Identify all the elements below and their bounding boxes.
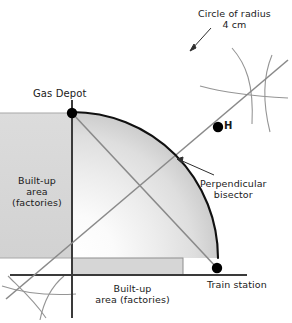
label-perpendicular-bisector: Perpendicular bisector bbox=[200, 178, 267, 200]
gas-depot-point bbox=[67, 108, 77, 118]
label-builtup-bottom-line2: area (factories) bbox=[75, 294, 190, 305]
construction-arc-right-cross-a bbox=[200, 86, 288, 98]
train-station-point bbox=[212, 263, 222, 273]
geometry-diagram: Circle of radius 4 cm Gas Depot H Perpen… bbox=[0, 0, 292, 323]
construction-arc-bottomleft-b bbox=[40, 276, 64, 320]
label-builtup-left-line1: Built-up bbox=[6, 175, 68, 186]
label-builtup-area-bottom: Built-up area (factories) bbox=[75, 283, 190, 305]
label-perpendicular-line1: Perpendicular bbox=[200, 178, 267, 189]
construction-arc-right-lower bbox=[265, 55, 272, 132]
label-builtup-bottom-line1: Built-up bbox=[75, 283, 190, 294]
label-circle-radius-line2: 4 cm bbox=[198, 19, 271, 30]
label-circle-of-radius: Circle of radius 4 cm bbox=[198, 8, 271, 30]
label-builtup-left-line2: area bbox=[6, 186, 68, 197]
builtup-area-bottom-rect bbox=[72, 258, 183, 275]
label-point-h: H bbox=[224, 120, 232, 132]
annotation-leaders bbox=[177, 28, 214, 175]
label-builtup-left-line3: (factories) bbox=[6, 197, 68, 208]
construction-arc-bottomleft-a bbox=[8, 276, 46, 318]
diagram-canvas bbox=[0, 0, 292, 323]
quarter-disc-shading bbox=[72, 112, 218, 258]
label-gas-depot: Gas Depot bbox=[33, 88, 86, 100]
label-perpendicular-line2: bisector bbox=[200, 189, 267, 200]
construction-arc-right-upper bbox=[232, 48, 252, 124]
label-circle-radius-line1: Circle of radius bbox=[198, 8, 271, 19]
label-builtup-area-left: Built-up area (factories) bbox=[6, 175, 68, 209]
point-h-marker bbox=[213, 122, 223, 132]
label-train-station: Train station bbox=[207, 279, 267, 290]
